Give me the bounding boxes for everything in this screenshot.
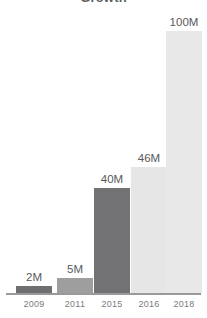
bar-value-2018: 100M — [158, 16, 207, 29]
bar-2015[interactable] — [94, 188, 130, 294]
axis-tick-label-2018: 2018 — [158, 299, 207, 310]
x-axis-baseline — [6, 293, 201, 295]
bar-group-2009: 2M 2009 — [16, 0, 52, 294]
bar-chart: Growth 2M 2009 5M 2011 40M 2015 46M 2016 — [0, 0, 207, 318]
bar-group-2018: 100M 2018 — [166, 0, 202, 294]
bar-2018[interactable] — [166, 31, 202, 294]
plot-area: 2M 2009 5M 2011 40M 2015 46M 2016 100M 2… — [0, 0, 207, 318]
bar-2011[interactable] — [57, 278, 93, 294]
bar-2016[interactable] — [131, 167, 167, 294]
bar-group-2011: 5M 2011 — [57, 0, 93, 294]
bar-group-2015: 40M 2015 — [94, 0, 130, 294]
bar-group-2016: 46M 2016 — [131, 0, 167, 294]
